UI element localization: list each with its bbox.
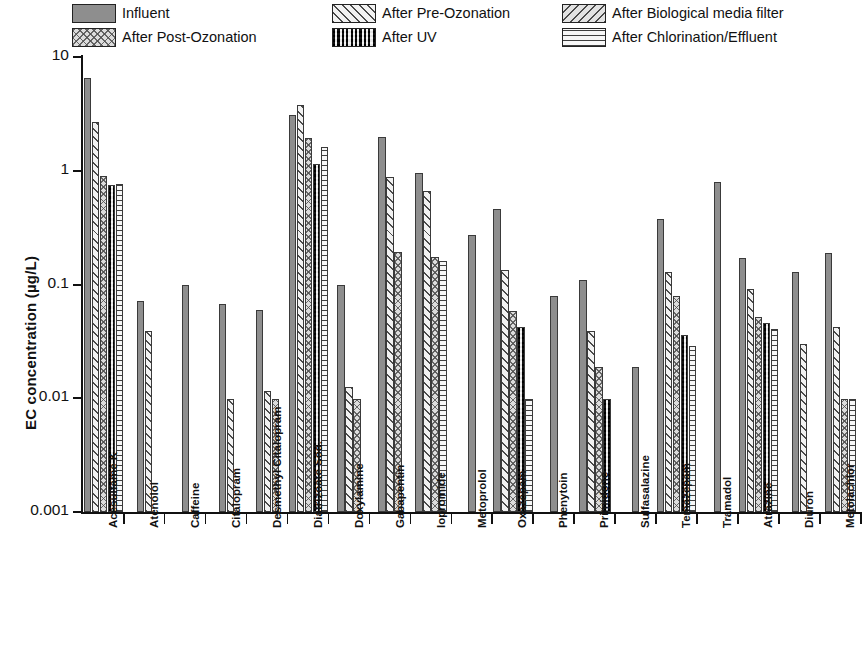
x-tick: [246, 514, 248, 524]
legend-item-post-ozonation: After Post-Ozonation: [72, 28, 257, 47]
x-tick: [614, 514, 616, 524]
x-tick: [410, 514, 412, 524]
x-tick: [123, 514, 125, 524]
x-axis-label-phenytoin: Phenytoin: [557, 472, 569, 528]
x-axis-label-primidone: Primidone: [598, 472, 610, 528]
chart-figure: Influent After Pre-Ozonation After Biolo…: [0, 0, 865, 655]
plot-area: [82, 57, 860, 512]
bar-desmethyl-citalopram-influent: [256, 310, 263, 512]
y-tick-label: 0.1: [47, 274, 69, 292]
y-tick-label: 1: [60, 160, 69, 178]
bar-temazepam-preoz: [665, 272, 672, 512]
legend-label-post-ozonation: After Post-Ozonation: [122, 30, 257, 45]
x-tick: [491, 514, 493, 524]
x-tick: [369, 514, 371, 524]
y-axis-label: EC concentration (µg/L): [22, 170, 39, 430]
y-tick-label: 0.01: [39, 387, 69, 405]
legend-item-chlorination-effluent: After Chlorination/Effluent: [562, 28, 777, 47]
x-tick: [328, 514, 330, 524]
bar-metolachlor-influent: [825, 253, 832, 512]
bar-iopromide-influent: [415, 173, 422, 512]
bar-oxazepam-influent: [493, 209, 500, 512]
x-tick: [860, 514, 862, 524]
x-tick: [205, 514, 207, 524]
legend-label-pre-ozonation: After Pre-Ozonation: [382, 6, 510, 21]
x-axis-label-diatrizoate-sod: Diatrizoate Sod.: [312, 441, 324, 528]
bar-primidone-preoz: [587, 331, 594, 512]
x-axis-label-iopromide: Iopromide: [435, 472, 447, 528]
legend-item-influent: Influent: [72, 4, 170, 23]
legend-label-biological-media-filter: After Biological media filter: [612, 6, 784, 21]
x-axis-label-atenolol: Atenolol: [148, 482, 160, 528]
x-axis-label-tramadol: Tramadol: [721, 477, 733, 528]
bar-diuron-preoz: [800, 344, 807, 512]
x-axis-label-desmethyl-citalopram: Desmethyl Citalopram: [271, 407, 283, 528]
x-tick: [532, 514, 534, 524]
legend-swatch-pre-ozonation: [332, 4, 376, 23]
bar-atrazine-preoz: [747, 289, 754, 512]
x-tick: [164, 514, 166, 524]
x-tick: [655, 514, 657, 524]
bar-temazepam-influent: [657, 219, 664, 512]
bar-citalopram-influent: [219, 304, 226, 512]
x-tick: [819, 514, 821, 524]
legend-item-biological-media-filter: After Biological media filter: [562, 4, 784, 23]
x-axis-label-doxylamine: Doxylamine: [353, 463, 365, 528]
bar-doxylamine-preoz: [345, 387, 352, 512]
legend-label-uv: After UV: [382, 30, 437, 45]
bar-gabapentin-influent: [378, 137, 385, 512]
x-tick: [778, 514, 780, 524]
bar-doxylamine-influent: [337, 285, 344, 513]
y-tick: [73, 284, 82, 286]
legend-swatch-post-ozonation: [72, 28, 116, 47]
bar-tramadol-influent: [714, 182, 721, 512]
bar-atenolol-influent: [137, 301, 144, 512]
bar-diatrizoate-sod-postoz: [305, 138, 312, 512]
y-tick: [73, 56, 82, 58]
legend-swatch-influent: [72, 4, 116, 23]
y-tick-label: 10: [52, 46, 69, 64]
legend-swatch-uv: [332, 28, 376, 47]
x-axis-label-acesulfame-k: Acesulfame K: [107, 452, 119, 528]
bar-oxazepam-preoz: [501, 270, 508, 512]
x-tick: [573, 514, 575, 524]
bar-atrazine-influent: [739, 258, 746, 512]
bar-metoprolol-influent: [468, 235, 475, 512]
chart-legend: Influent After Pre-Ozonation After Biolo…: [72, 4, 862, 50]
y-tick: [73, 397, 82, 399]
x-axis-label-oxazepam: Oxazepam: [516, 470, 528, 528]
y-tick: [73, 170, 82, 172]
x-axis-label-sulfasalazine: Sulfasalazine: [639, 455, 651, 528]
x-axis-label-diuron: Diuron: [803, 491, 815, 528]
x-axis-label-metolachlor: Metolachlor: [844, 463, 856, 528]
bar-caffeine-influent: [182, 285, 189, 513]
x-axis-label-atrazine: Atrazine: [762, 483, 774, 528]
y-tick-label: 0.001: [30, 501, 69, 519]
bar-acesulfame-k-preoz: [92, 122, 99, 512]
legend-swatch-chlorination-effluent: [562, 28, 606, 47]
bar-acesulfame-k-influent: [84, 78, 91, 512]
bar-gabapentin-preoz: [386, 177, 393, 512]
x-axis-label-gabapentin: Gabapentin: [394, 465, 406, 528]
x-tick: [696, 514, 698, 524]
legend-item-pre-ozonation: After Pre-Ozonation: [332, 4, 510, 23]
x-tick: [737, 514, 739, 524]
x-axis-label-caffeine: Caffeine: [189, 483, 201, 528]
bar-metolachlor-preoz: [833, 327, 840, 512]
legend-label-influent: Influent: [122, 6, 170, 21]
legend-item-uv: After UV: [332, 28, 437, 47]
legend-label-chlorination-effluent: After Chlorination/Effluent: [612, 30, 777, 45]
x-axis-label-metoprolol: Metoprolol: [476, 469, 488, 528]
x-axis-label-citalopram: Citalopram: [230, 468, 242, 528]
x-tick: [287, 514, 289, 524]
bar-diuron-influent: [792, 272, 799, 512]
legend-swatch-biological-media-filter: [562, 4, 606, 23]
y-tick: [73, 511, 82, 513]
x-axis-label-temazepam: Temazepam: [680, 463, 692, 528]
bar-diatrizoate-sod-preoz: [297, 105, 304, 512]
bar-primidone-influent: [579, 280, 586, 512]
bar-diatrizoate-sod-influent: [289, 115, 296, 512]
bar-iopromide-preoz: [423, 191, 430, 512]
x-tick: [451, 514, 453, 524]
bar-desmethyl-citalopram-preoz: [264, 391, 271, 512]
